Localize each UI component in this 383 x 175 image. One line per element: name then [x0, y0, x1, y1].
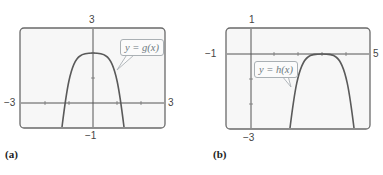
- xmin-label: −3: [4, 98, 15, 108]
- ymin-label: −3: [243, 133, 254, 143]
- ymax-label: 3: [89, 15, 95, 25]
- graph-a-plot: [0, 0, 190, 175]
- callout-h: y = h(x): [254, 61, 298, 78]
- graph-panel-b: y = h(x) 1 −3 −1 5 (b): [190, 0, 383, 175]
- panel-label-b: (b): [213, 148, 226, 160]
- xmax-label: 3: [168, 98, 174, 108]
- graph-panel-a: y = g(x) 3 −1 −3 3 (a): [0, 0, 190, 175]
- xmin-label: −1: [205, 49, 216, 59]
- xmax-label: 5: [373, 49, 379, 59]
- ymax-label: 1: [249, 15, 255, 25]
- ymin-label: −1: [85, 131, 96, 141]
- panel-label-a: (a): [5, 148, 18, 160]
- callout-g: y = g(x): [120, 39, 164, 56]
